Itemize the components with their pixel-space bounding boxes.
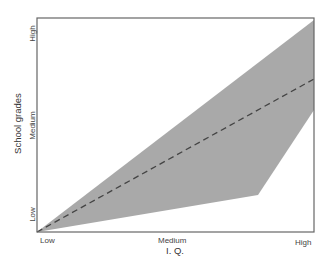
x-axis-title: I. Q.	[166, 245, 184, 256]
x-tick-high: High	[295, 238, 311, 247]
y-tick-low: Low	[28, 204, 37, 226]
x-tick-low: Low	[40, 236, 55, 245]
chart-canvas	[0, 0, 329, 263]
x-tick-medium: Medium	[158, 236, 186, 245]
y-axis-title: School grades	[12, 89, 23, 159]
grade-range-band	[37, 20, 314, 232]
y-tick-medium: Medium	[28, 110, 37, 142]
y-tick-high: High	[28, 22, 37, 46]
